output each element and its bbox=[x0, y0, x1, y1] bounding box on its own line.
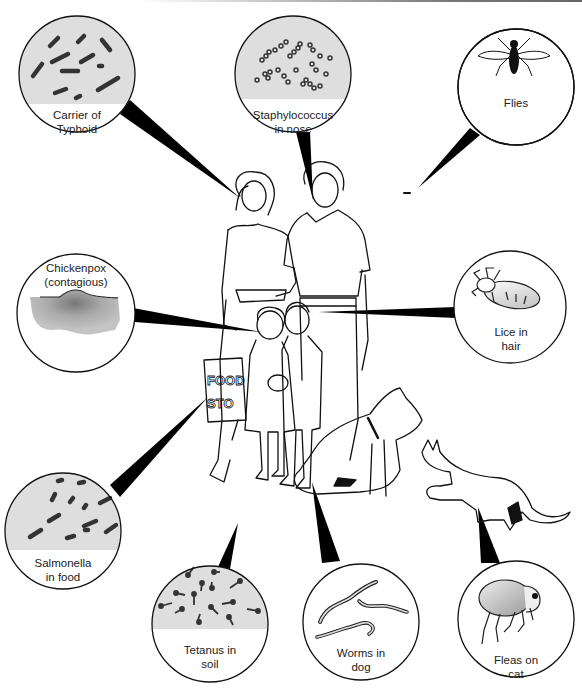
label-chickenpox: Chickenpox (contagious) bbox=[26, 261, 126, 289]
label-worms-line2: dog bbox=[311, 660, 411, 674]
label-typhoid-line2: Typhoid bbox=[27, 122, 127, 136]
label-worms-line1: Worms in bbox=[311, 646, 411, 660]
label-typhoid-line1: Carrier of bbox=[27, 108, 127, 122]
label-lice-line1: Lice in bbox=[466, 325, 556, 339]
label-typhoid: Carrier of Typhoid bbox=[27, 108, 127, 136]
label-tetanus-line1: Tetanus in bbox=[160, 643, 260, 657]
label-lice-line2: hair bbox=[466, 339, 556, 353]
label-flies-line1: Flies bbox=[466, 96, 566, 110]
label-staph-line2: in nose bbox=[238, 122, 348, 136]
pointer-flies bbox=[418, 128, 480, 188]
label-tetanus-line2: soil bbox=[160, 657, 260, 671]
pointer-fleas bbox=[478, 507, 500, 563]
pointer-typhoid bbox=[120, 100, 240, 198]
label-fleas-line2: cat bbox=[466, 667, 566, 681]
label-fleas-line1: Fleas on bbox=[466, 653, 566, 667]
food-bag bbox=[204, 358, 246, 422]
label-fleas: Fleas on cat bbox=[466, 653, 566, 681]
pointer-chickenpox bbox=[133, 308, 262, 332]
girl-figure bbox=[245, 307, 295, 480]
pointer-salmonella bbox=[110, 397, 208, 497]
label-salmonella-line2: in food bbox=[13, 570, 113, 584]
food-bag-text-2: STO bbox=[207, 396, 234, 411]
cat-figure bbox=[422, 440, 570, 530]
pointer-tetanus bbox=[218, 523, 238, 569]
pointer-staph bbox=[296, 132, 313, 200]
baby-figure bbox=[268, 375, 288, 391]
label-staph-line1: Staphylococcus bbox=[238, 108, 348, 122]
label-salmonella: Salmonella in food bbox=[13, 556, 113, 584]
label-lice: Lice in hair bbox=[466, 325, 556, 353]
label-tetanus: Tetanus in soil bbox=[160, 643, 260, 671]
label-worms: Worms in dog bbox=[311, 646, 411, 674]
label-chickenpox-line1: Chickenpox bbox=[26, 261, 126, 275]
label-salmonella-line1: Salmonella bbox=[13, 556, 113, 570]
callout-flies bbox=[458, 29, 574, 145]
pointer-lice bbox=[318, 307, 456, 318]
label-chickenpox-line2: (contagious) bbox=[26, 275, 126, 289]
food-bag-text-1: FOOD bbox=[207, 373, 245, 388]
label-flies: Flies bbox=[466, 96, 566, 110]
label-staph: Staphylococcus in nose bbox=[238, 108, 348, 136]
